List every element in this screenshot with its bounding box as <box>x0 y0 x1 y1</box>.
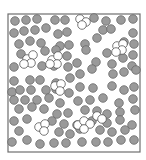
filled-particle <box>92 138 101 147</box>
filled-particle <box>8 88 17 97</box>
filled-particle <box>15 105 24 114</box>
filled-particle <box>76 83 85 92</box>
filled-particle <box>41 47 50 56</box>
filled-particle <box>129 51 138 60</box>
filled-particle <box>62 139 71 148</box>
filled-particle <box>129 15 138 24</box>
filled-particle <box>130 83 139 92</box>
filled-particle <box>131 106 140 115</box>
filled-particle <box>107 25 116 34</box>
filled-particle <box>28 103 37 112</box>
filled-particle <box>63 28 72 37</box>
filled-particle <box>109 70 118 79</box>
filled-particle <box>33 15 42 24</box>
open-particle <box>112 48 121 57</box>
filled-particle <box>104 138 113 147</box>
filled-particle <box>65 41 74 50</box>
filled-particle <box>10 63 19 72</box>
filled-particle <box>60 120 69 129</box>
filled-particle <box>121 126 130 135</box>
open-particle <box>40 127 49 136</box>
filled-particle <box>64 109 73 118</box>
filled-particle <box>27 86 36 95</box>
filled-particle <box>130 40 139 49</box>
open-particle <box>29 51 38 60</box>
filled-particle <box>108 82 117 91</box>
open-particle <box>98 115 107 124</box>
filled-particle <box>108 60 117 69</box>
filled-particle <box>65 89 74 98</box>
open-particle <box>20 60 29 69</box>
filled-particle <box>42 86 51 95</box>
filled-particle <box>120 86 129 95</box>
filled-particle <box>117 136 126 145</box>
filled-particle <box>26 76 35 85</box>
filled-particle <box>103 49 112 58</box>
filled-particle <box>55 128 64 137</box>
filled-particle <box>15 40 24 49</box>
filled-particle <box>21 96 30 105</box>
particle-box-diagram <box>0 0 146 160</box>
filled-particle <box>73 59 82 68</box>
open-particle <box>56 87 65 96</box>
filled-particle <box>66 74 75 83</box>
filled-particle <box>116 108 125 117</box>
filled-particle <box>61 16 70 25</box>
open-particle <box>78 21 87 30</box>
filled-particle <box>23 136 32 145</box>
filled-particle <box>81 106 90 115</box>
filled-particle <box>117 16 126 25</box>
filled-particle <box>23 115 32 124</box>
filled-particle <box>120 68 129 77</box>
filled-particle <box>132 66 141 75</box>
filled-particle <box>78 138 87 147</box>
filled-particle <box>38 62 47 71</box>
open-particle <box>46 60 55 69</box>
filled-particle <box>36 140 45 149</box>
filled-particle <box>66 130 75 139</box>
filled-particle <box>10 96 19 105</box>
filled-particle <box>10 77 19 86</box>
open-particle <box>80 125 89 134</box>
filled-particle <box>54 30 63 39</box>
filled-particle <box>115 99 124 108</box>
filled-particle <box>11 17 20 26</box>
filled-particle <box>37 39 46 48</box>
filled-particle <box>26 37 35 46</box>
filled-particle <box>64 63 73 72</box>
filled-particle <box>16 86 25 95</box>
filled-particle <box>20 27 29 36</box>
filled-particle <box>89 84 98 93</box>
filled-particle <box>10 29 19 38</box>
filled-particle <box>129 29 138 38</box>
filled-particle <box>93 34 102 43</box>
filled-particle <box>129 95 138 104</box>
filled-particle <box>108 128 117 137</box>
filled-particle <box>15 127 24 136</box>
filled-particle <box>99 94 108 103</box>
filled-particle <box>74 97 83 106</box>
filled-particle <box>40 105 49 114</box>
filled-particle <box>119 54 128 63</box>
filled-particle <box>88 65 97 74</box>
filled-particle <box>31 26 40 35</box>
filled-particle <box>56 99 65 108</box>
filled-particle <box>8 138 17 147</box>
open-particle <box>54 52 63 61</box>
filled-particle <box>96 126 105 135</box>
filled-particle <box>82 46 91 55</box>
filled-particle <box>42 24 51 33</box>
filled-particle <box>10 117 19 126</box>
filled-particle <box>22 16 31 25</box>
filled-particle <box>130 136 139 145</box>
filled-particle <box>99 26 108 35</box>
filled-particle <box>76 70 85 79</box>
filled-particle <box>116 116 125 125</box>
filled-particle <box>63 52 72 61</box>
filled-particle <box>102 17 111 26</box>
filled-particle <box>90 14 99 23</box>
filled-particle <box>51 16 60 25</box>
filled-particle <box>45 94 54 103</box>
filled-particle <box>86 96 95 105</box>
filled-particle <box>50 139 59 148</box>
